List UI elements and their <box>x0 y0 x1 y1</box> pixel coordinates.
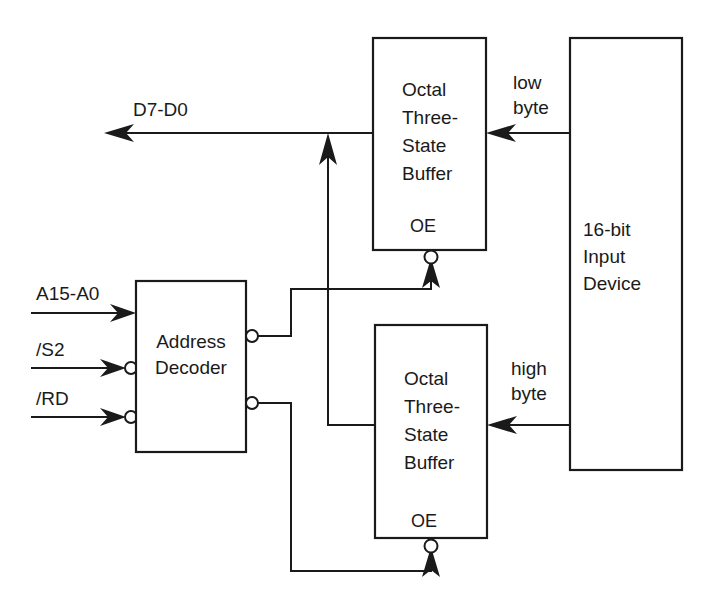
data-bus-label: D7-D0 <box>133 99 188 121</box>
buffer-high-output-wire <box>319 133 375 425</box>
buffer-high-label-line-4: Buffer <box>404 449 460 477</box>
address-bus-label: A15-A0 <box>36 283 99 305</box>
read-signal-label: /RD <box>36 388 69 410</box>
address-decoder-label: Address Decoder <box>136 329 246 381</box>
low-byte-label-line-1: low <box>513 70 549 95</box>
select-signal-label: /S2 <box>36 339 65 361</box>
address-bus-wire <box>32 304 136 322</box>
low-byte-label-line-2: byte <box>513 95 549 120</box>
buffer-low-label: Octal Three- State Buffer <box>402 76 458 188</box>
read-signal-wire <box>32 408 137 426</box>
high-byte-label-line-2: byte <box>511 381 547 406</box>
buffer-high-label: Octal Three- State Buffer <box>404 365 460 477</box>
buffer-low-label-line-3: State <box>402 132 458 160</box>
input-device-label-line-1: 16-bit <box>583 216 641 243</box>
buffer-high-label-line-3: State <box>404 421 460 449</box>
input-device-label-line-3: Device <box>583 270 641 297</box>
select-signal-wire <box>32 359 137 377</box>
high-byte-label: high byte <box>511 356 547 406</box>
high-byte-label-line-1: high <box>511 356 547 381</box>
input-device-label-line-2: Input <box>583 243 641 270</box>
input-device-label: 16-bit Input Device <box>583 216 641 297</box>
buffer-low-label-line-1: Octal <box>402 76 458 104</box>
buffer-low-label-line-4: Buffer <box>402 160 458 188</box>
low-byte-wire <box>486 124 570 142</box>
address-decoder-label-line-1: Address <box>136 329 246 355</box>
block-diagram: A15-A0 /S2 /RD D7-D0 Address Decoder Oct… <box>0 0 717 608</box>
data-bus-wire <box>104 124 373 142</box>
buffer-high-oe-label: OE <box>411 511 437 532</box>
high-byte-wire <box>487 416 570 434</box>
buffer-high-label-line-2: Three- <box>404 393 460 421</box>
low-byte-label: low byte <box>513 70 549 120</box>
buffer-low-oe-label: OE <box>410 216 436 237</box>
buffer-low-label-line-2: Three- <box>402 104 458 132</box>
diagram-canvas <box>0 0 717 608</box>
address-decoder-label-line-2: Decoder <box>136 355 246 381</box>
buffer-high-label-line-1: Octal <box>404 365 460 393</box>
